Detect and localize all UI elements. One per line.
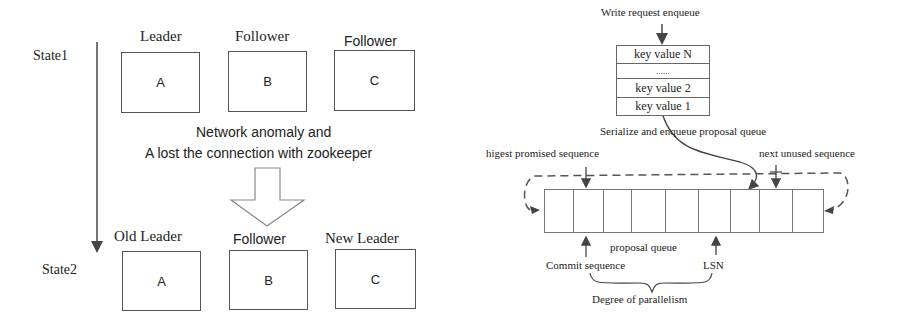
state2-label: State2 [42, 262, 77, 278]
transition-text-line1: Network anomaly and [196, 124, 331, 140]
transition-arrow-icon [231, 168, 304, 226]
parallelism-brace [590, 273, 712, 292]
queue-cell [603, 189, 632, 233]
parallelism-label: Degree of parallelism [592, 293, 687, 305]
node-b-state1: B [228, 51, 307, 112]
state1-label: State1 [33, 48, 68, 64]
queue-cell [759, 189, 793, 233]
write-queue-item: ...... [616, 63, 710, 79]
queue-cell [792, 189, 824, 233]
lsn-label: LSN [703, 259, 724, 271]
queue-cell [665, 189, 699, 233]
transition-text-line2: A lost the connection with zookeeper [145, 145, 372, 161]
role-new-leader: New Leader [325, 230, 399, 247]
commit-sequence-label: Commit sequence [546, 259, 625, 271]
role-old-leader: Old Leader [114, 228, 182, 245]
queue-cell [631, 189, 666, 233]
role-follower-state2: Follower [233, 231, 286, 247]
node-b-state2: B [229, 250, 308, 310]
role-follower-c: Follower [344, 33, 397, 49]
write-queue-item: key value N [616, 45, 710, 64]
queue-cell [698, 189, 731, 233]
next-unused-label: next unused sequence [759, 147, 855, 159]
node-c-state2: C [335, 249, 416, 309]
serialize-label: Serialize and enqueue proposal queue [600, 125, 766, 137]
node-a-state1: A [121, 52, 200, 113]
queue-cell [544, 189, 574, 233]
queue-cell [730, 189, 760, 233]
highest-promised-label: higest promised sequence [486, 147, 599, 159]
node-a-state2: A [122, 251, 201, 311]
queue-cell [573, 189, 604, 233]
proposal-queue-label: proposal queue [610, 241, 677, 253]
write-queue-item: key value 1 [616, 97, 710, 116]
write-request-label: Write request enqueue [601, 6, 700, 18]
write-queue-item: key value 2 [616, 78, 710, 98]
node-c-state1: C [334, 50, 415, 111]
role-leader: Leader [140, 28, 182, 45]
role-follower-b: Follower [235, 28, 289, 45]
